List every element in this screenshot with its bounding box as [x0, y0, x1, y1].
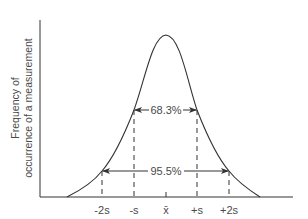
label-95-5-percent: 95.5% [150, 165, 181, 177]
normal-distribution-figure: 68.3% 95.5% -2s -s x̄ +s +2s Frequency o… [0, 0, 308, 219]
y-axis-label-line2: occurrence of a measurement [22, 38, 34, 178]
tick-label-minus-2s: -2s [94, 204, 110, 216]
tick-label-mean: x̄ [163, 204, 169, 216]
label-68-3-percent: 68.3% [150, 104, 181, 116]
tick-label-plus-2s: +2s [220, 204, 239, 216]
y-axis-label-line1: Frequency of [9, 77, 21, 138]
tick-label-plus-s: +s [191, 204, 203, 216]
tick-label-minus-s: -s [129, 204, 139, 216]
